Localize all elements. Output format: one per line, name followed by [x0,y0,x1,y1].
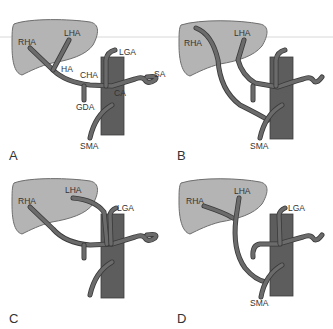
panel-d: RHA LHA LGA SMA D [177,179,322,326]
liver [179,179,267,234]
label-lha: LHA [234,186,251,196]
label-sa: SA [154,69,166,79]
label-ca: CA [114,88,126,98]
label-cha: CHA [80,70,98,80]
label-rha: RHA [18,196,36,206]
liver [12,179,98,234]
hepatic-artery-variants-diagram: RHA LHA HA CHA LGA SA CA GDA SMA A RHA L… [0,0,333,329]
label-lha: LHA [65,185,82,195]
panel-letter-d: D [177,311,186,326]
label-lha: LHA [64,28,81,38]
label-lha: LHA [234,28,251,38]
panel-b: RHA LHA SMA B [177,21,322,163]
label-sma: SMA [250,141,269,151]
label-sma: SMA [250,298,269,308]
label-sma: SMA [80,141,99,151]
panel-letter-c: C [9,311,18,326]
label-lga: LGA [288,203,305,213]
panel-letter-b: B [177,148,186,163]
label-rha: RHA [18,37,36,47]
panel-a: RHA LHA HA CHA LGA SA CA GDA SMA A [9,20,166,163]
label-lga: LGA [117,203,134,213]
aorta [270,57,293,139]
label-rha: RHA [186,196,204,206]
label-rha: RHA [184,38,202,48]
label-gda: GDA [76,102,95,112]
label-lga: LGA [119,47,136,57]
liver [179,21,267,76]
panel-letter-a: A [9,148,18,163]
label-ha: HA [61,64,73,74]
panel-c: RHA LHA LGA C [9,179,156,326]
